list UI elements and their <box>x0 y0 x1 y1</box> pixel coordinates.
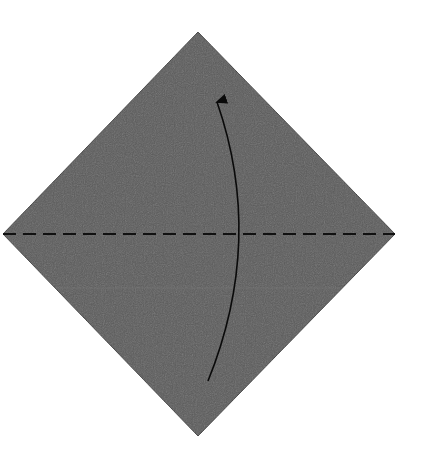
diagram-canvas <box>0 0 428 461</box>
paper-square <box>3 32 395 436</box>
origami-diagram <box>0 0 428 461</box>
